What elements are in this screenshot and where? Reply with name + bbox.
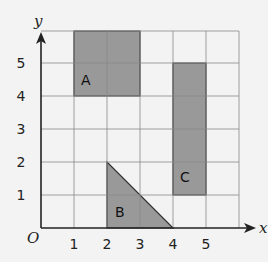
svg-text:2: 2 [17,154,26,170]
svg-text:4: 4 [17,88,26,104]
x-tick-labels: 1 2 3 4 5 [70,236,211,252]
svg-text:4: 4 [169,236,178,252]
y-tick-labels: 1 2 3 4 5 [17,55,26,203]
svg-text:1: 1 [70,236,79,252]
x-axis-label: x [259,219,268,237]
svg-text:2: 2 [103,236,112,252]
shape-c-label: C [180,169,190,185]
svg-text:3: 3 [136,236,145,252]
svg-text:5: 5 [202,236,211,252]
grid-lines [41,31,239,228]
y-axis-label: y [33,12,43,30]
svg-text:3: 3 [17,121,26,137]
coordinate-grid: y x O 1 2 3 4 5 1 2 3 4 5 A B C [0,0,268,262]
origin-label: O [27,229,39,247]
svg-text:1: 1 [17,187,26,203]
shape-a-label: A [81,72,91,88]
shape-b-label: B [115,204,125,220]
svg-text:5: 5 [17,55,26,71]
